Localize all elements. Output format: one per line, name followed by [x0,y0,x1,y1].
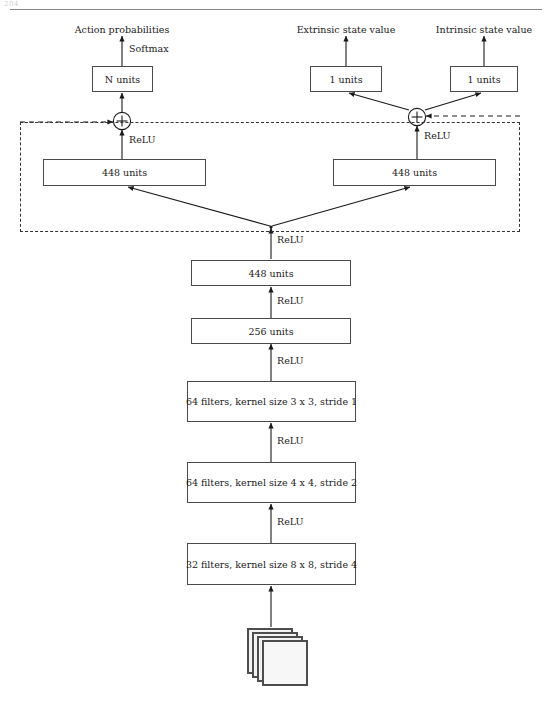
label-relu-right-block: ReLU [424,130,451,141]
label-action-probabilities: Action probabilities [75,24,170,35]
label-relu-conv3: ReLU [277,435,304,446]
figure-canvas: 204 [0,0,552,702]
label-relu-fc2: ReLU [277,295,304,306]
label-relu-left-block: ReLU [129,134,156,145]
label-softmax: Softmax [129,43,169,54]
conv3-box[interactable]: 64 filters, kernel size 3 x 3, stride 1 [187,381,356,422]
extrinsic-head-box[interactable]: 1 units [310,66,382,92]
trunk-fc2-box[interactable]: 448 units [191,260,351,286]
label-relu-conv2: ReLU [277,516,304,527]
label-intrinsic-state-value: Intrinsic state value [436,24,532,35]
arrow-add-right-to-intrinsic-head [425,93,481,110]
connector-layer [0,0,552,702]
conv2-box[interactable]: 64 filters, kernel size 4 x 4, stride 2 [187,462,356,503]
conv1-box[interactable]: 32 filters, kernel size 8 x 8, stride 4 [187,543,356,585]
input-frame [262,640,308,686]
input-frame-stack [247,628,313,690]
residual-left-fc-box[interactable]: 448 units [43,159,206,186]
label-relu-fc1: ReLU [277,355,304,366]
label-relu-split: ReLU [277,234,304,245]
label-extrinsic-state-value: Extrinsic state value [297,24,396,35]
intrinsic-head-box[interactable]: 1 units [450,66,518,92]
arrow-add-right-to-extrinsic-head [349,93,409,110]
policy-head-box[interactable]: N units [92,66,153,92]
trunk-fc1-box[interactable]: 256 units [191,318,351,344]
residual-right-fc-box[interactable]: 448 units [333,159,496,186]
